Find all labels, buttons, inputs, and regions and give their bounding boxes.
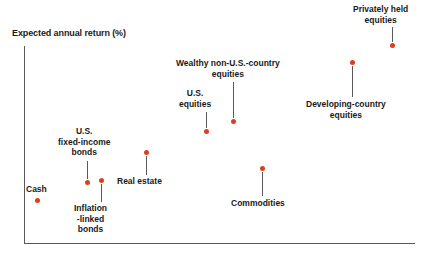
point-label: Privately heldequities <box>353 4 408 25</box>
point-label: Wealthy non-U.S.-countryequities <box>176 58 280 79</box>
point-label: Cash <box>26 184 47 195</box>
leader-line <box>233 82 234 118</box>
leader-line <box>101 184 102 202</box>
point-label-line: bonds <box>58 147 110 158</box>
leader-line <box>352 66 353 97</box>
point-label-line: fixed-income <box>58 137 110 148</box>
point-label-line: equities <box>179 99 211 110</box>
leader-line <box>262 172 263 196</box>
point-label-line: bonds <box>74 224 107 235</box>
data-point[interactable] <box>99 178 104 183</box>
point-label-line: Developing-country <box>306 99 386 110</box>
point-label-line: Real estate <box>117 176 162 187</box>
point-label: U.S.equities <box>179 88 211 109</box>
point-label-line: equities <box>353 15 408 26</box>
point-label-line: Cash <box>26 184 47 195</box>
point-label-line: Privately held <box>353 4 408 15</box>
data-point[interactable] <box>35 198 40 203</box>
leader-line <box>146 156 147 175</box>
chart-canvas: Expected annual return (%) CashU.S.fixed… <box>0 0 427 254</box>
y-axis-title: Expected annual return (%) <box>12 28 126 38</box>
data-point[interactable] <box>350 60 355 65</box>
y-axis-line <box>24 46 25 244</box>
point-label: Real estate <box>117 176 162 187</box>
point-label-line: U.S. <box>58 126 110 137</box>
point-label: Commodities <box>231 198 285 209</box>
point-label-line: -linked <box>74 214 107 225</box>
point-label: Developing-countryequities <box>306 99 386 120</box>
point-label-line: Inflation <box>74 203 107 214</box>
point-label: U.S.fixed-incomebonds <box>58 126 110 158</box>
leader-line <box>206 112 207 128</box>
point-label-line: equities <box>306 110 386 121</box>
data-point[interactable] <box>144 150 149 155</box>
data-point[interactable] <box>204 129 209 134</box>
leader-line <box>87 161 88 179</box>
data-point[interactable] <box>260 166 265 171</box>
leader-line <box>392 27 393 42</box>
data-point[interactable] <box>85 180 90 185</box>
point-label-line: equities <box>176 69 280 80</box>
point-label-line: Commodities <box>231 198 285 209</box>
point-label: Inflation-linkedbonds <box>74 203 107 235</box>
x-axis-line <box>24 243 415 244</box>
point-label-line: U.S. <box>179 88 211 99</box>
data-point[interactable] <box>390 43 395 48</box>
point-label-line: Wealthy non-U.S.-country <box>176 58 280 69</box>
data-point[interactable] <box>231 119 236 124</box>
